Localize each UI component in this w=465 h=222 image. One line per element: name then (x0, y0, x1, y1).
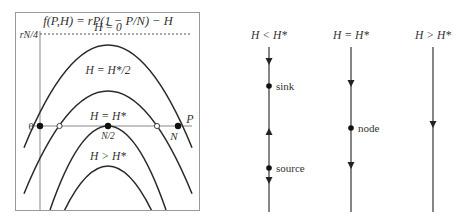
arrow-down-icon (266, 58, 273, 65)
curve-label-h-half-star: H = H*/2 (85, 64, 131, 76)
curve-h-above-star (60, 166, 156, 220)
source-point (266, 165, 272, 171)
phase-line-at-critical: H = H* node (332, 29, 379, 212)
function-plot-panel: f(P,H) = rP(1 − P/N) − H rN/4 H = 0 H = … (16, 13, 200, 221)
x-axis-label: P (185, 112, 194, 126)
phase-line-below-critical: H < H* sink source (250, 29, 305, 212)
curve-label-h-zero: H = 0 (93, 21, 122, 33)
phase-line-header: H < H* (250, 29, 287, 41)
arrow-up-icon (266, 128, 273, 135)
equilibrium-n-filled (175, 123, 181, 129)
harvesting-bifurcation-figure: f(P,H) = rP(1 − P/N) − H rN/4 H = 0 H = … (0, 0, 465, 222)
phase-line-above-critical: H > H* (414, 29, 451, 212)
curve-h-half-star (24, 91, 192, 194)
node-label: node (358, 122, 380, 134)
sink-point (266, 83, 272, 89)
equilibrium-right-open (154, 123, 159, 128)
y-tick-rN4: rN/4 (20, 29, 38, 40)
arrow-down-icon (348, 162, 355, 169)
arrow-down-icon (348, 80, 355, 87)
equilibrium-n-half-filled (105, 123, 111, 129)
sink-label: sink (276, 80, 295, 92)
arrow-down-icon (266, 177, 273, 184)
curve-label-h-above-star: H > H* (89, 150, 126, 162)
arrow-down-icon (430, 121, 437, 128)
x-tick-n-half: N/2 (100, 131, 115, 141)
equilibrium-left-open (57, 123, 62, 128)
phase-line-header: H > H* (414, 29, 451, 41)
equilibrium-zero-filled (37, 123, 43, 129)
phase-line-header: H = H* (332, 29, 369, 41)
node-point (348, 125, 354, 131)
source-label: source (276, 162, 305, 174)
origin-label: 0 (28, 121, 33, 132)
x-tick-n: N (169, 130, 178, 142)
curve-label-h-star: H = H* (89, 110, 126, 122)
